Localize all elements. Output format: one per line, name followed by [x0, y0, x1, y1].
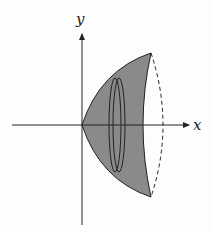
y-axis-label: y [75, 10, 85, 28]
x-axis-label: x [193, 116, 202, 134]
solid-of-revolution-diagram: x y [0, 0, 213, 232]
